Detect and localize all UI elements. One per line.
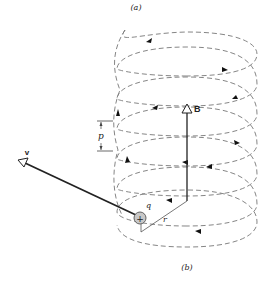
pitch-marker: p bbox=[97, 121, 113, 151]
arrow-icon bbox=[125, 156, 130, 163]
charge-particle: + q bbox=[134, 201, 151, 224]
hollow-arrowhead-icon bbox=[18, 158, 28, 167]
label-b: B bbox=[194, 104, 201, 114]
arrow-icon bbox=[232, 95, 238, 99]
arrow-icon bbox=[166, 198, 172, 203]
caption-top: (a) bbox=[130, 3, 141, 12]
label-r: r bbox=[163, 215, 168, 224]
label-p: p bbox=[98, 131, 104, 141]
arrow-icon bbox=[116, 109, 120, 116]
magnetic-field-vector: B bbox=[182, 104, 201, 201]
label-v: v bbox=[25, 148, 30, 157]
hollow-arrowhead-icon bbox=[182, 104, 192, 113]
arrow-icon bbox=[146, 38, 152, 43]
helical-motion-diagram: (a) B p bbox=[0, 0, 272, 281]
caption-bottom: (b) bbox=[181, 263, 192, 272]
arrow-icon bbox=[234, 140, 240, 145]
arrow-icon bbox=[222, 67, 228, 72]
charge-sign: + bbox=[136, 214, 144, 224]
arrow-icon bbox=[195, 229, 201, 234]
label-q: q bbox=[146, 201, 151, 210]
